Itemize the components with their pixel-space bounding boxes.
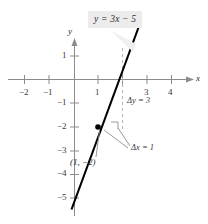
delta-x-annotation: Δx = 1 [131, 143, 154, 152]
right-angle-marker [111, 122, 118, 129]
delta-x-leader [104, 128, 130, 148]
x-tick-label-neg1: −1 [43, 88, 53, 97]
y-tick-label-1: 1 [62, 51, 67, 60]
x-tick-label-neg2: −2 [19, 88, 29, 97]
x-tick-label-1: 1 [95, 88, 100, 97]
y-tick-label-neg1: −1 [57, 98, 67, 107]
y-tick-label-neg5: −5 [57, 193, 67, 202]
x-axis [8, 75, 194, 84]
y-tick-label-neg3: −3 [57, 146, 67, 155]
graph-figure: y = 3x − 5 x y −2 −1 1 3 4 1 −1 −2 −3 −4… [0, 0, 208, 224]
plotted-point-1-minus2 [95, 124, 101, 130]
y-axis [70, 38, 79, 216]
coordinate-plane [0, 0, 208, 224]
equation-label: y = 3x − 5 [88, 11, 142, 28]
x-axis-label: x [196, 74, 200, 83]
point-coordinate-label: (1, −2) [70, 158, 96, 167]
y-tick-label-neg2: −2 [57, 122, 67, 131]
y-tick-label-neg4: −4 [57, 169, 67, 178]
delta-y-annotation: Δy = 3 [127, 96, 150, 105]
x-tick-label-4: 4 [168, 88, 173, 97]
y-axis-label: y [68, 27, 72, 36]
line-graph-y-equals-3x-minus-5 [72, 28, 139, 210]
